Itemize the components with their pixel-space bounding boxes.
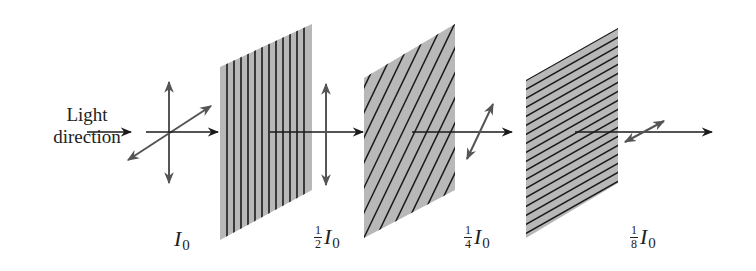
polarizer-vertical [220,0,312,271]
fraction-numerator: 1 [631,225,637,236]
intensity-label-3: 14 I0 [464,224,490,250]
intensity-subscript: 0 [332,235,340,252]
fraction: 12 [314,225,322,250]
intensity-symbol: I [324,224,331,250]
light-label-line2: direction [42,126,132,148]
intensity-symbol: I [474,224,481,250]
fraction-numerator: 1 [315,225,321,236]
intensity-label-2: 12 I0 [314,224,340,250]
fraction-denominator: 4 [465,239,471,250]
fraction: 18 [630,225,638,250]
intensity-symbol: I [174,226,181,252]
intensity-subscript: 0 [482,235,490,252]
intensity-subscript: 0 [182,237,190,254]
fraction-numerator: 1 [465,225,471,236]
intensity-symbol: I [640,224,647,250]
fraction: 14 [464,225,472,250]
polarizer-horizontal [500,16,640,266]
intensity-label-4: 18 I0 [630,224,656,250]
fraction-denominator: 2 [315,239,321,250]
fraction-denominator: 8 [631,239,637,250]
light-direction-label: Light direction [42,104,132,148]
intensity-subscript: 0 [648,235,656,252]
light-label-line1: Light [42,104,132,126]
unpolarized-light-icon [128,82,218,183]
intensity-label-1: I0 [174,226,190,252]
polarizer-diagram: Light direction I0 12 I0 14 I0 18 I0 [0,0,756,271]
